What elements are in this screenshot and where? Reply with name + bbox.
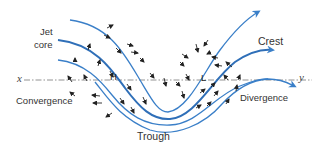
streamline-3 <box>58 60 268 125</box>
label-jet-core-line2: core <box>34 40 52 50</box>
label-jet-core-line1: Jet <box>40 27 53 37</box>
label-axis-x: x <box>17 73 22 84</box>
label-divergence: Divergence <box>240 93 288 103</box>
label-low-pressure: L <box>201 73 206 83</box>
label-axis-y: y <box>299 72 304 83</box>
label-trough: Trough <box>137 131 170 142</box>
jet-stream-diagram <box>0 0 318 151</box>
label-high-pressure: H <box>110 72 117 82</box>
streamline-jet-core <box>58 40 272 119</box>
label-convergence: Convergence <box>16 96 73 106</box>
label-crest: Crest <box>258 36 283 47</box>
